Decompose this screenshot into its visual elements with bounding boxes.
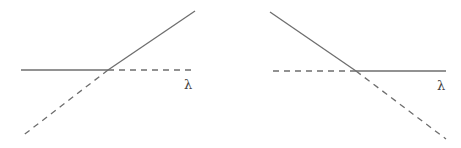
diagram-canvas: λ λ bbox=[0, 0, 461, 148]
left-diagram: λ bbox=[21, 11, 195, 137]
left-solid-diagonal bbox=[108, 11, 195, 70]
right-lambda-label: λ bbox=[437, 78, 445, 93]
left-lambda-label: λ bbox=[184, 77, 192, 92]
right-solid-diagonal bbox=[270, 12, 356, 71]
left-dashed-diagonal bbox=[21, 70, 108, 137]
right-diagram: λ bbox=[270, 12, 446, 139]
right-dashed-diagonal bbox=[356, 71, 446, 139]
